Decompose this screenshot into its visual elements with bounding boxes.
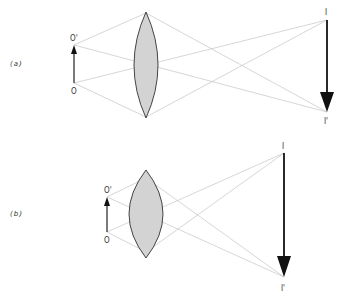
panel-a-image-tip-label: I' xyxy=(324,117,328,126)
panel-b-object-tip-label: O' xyxy=(104,186,112,195)
panel-a-object-tip-label: O' xyxy=(70,34,78,43)
lens-diagram: (a) O' O I I' (b) xyxy=(0,0,339,298)
panel-a: (a) O' O I I' xyxy=(10,8,334,126)
panel-b-image-top-label: I xyxy=(282,142,284,151)
panel-a-image-top-label: I xyxy=(325,8,327,17)
panel-a-object-arrow xyxy=(71,45,77,83)
panel-b-label: (b) xyxy=(10,210,23,218)
panel-b-lens xyxy=(129,170,163,258)
panel-b-image-tip-label: I' xyxy=(281,284,285,293)
panel-a-image-arrow xyxy=(320,20,334,112)
panel-b-image-arrow xyxy=(277,153,291,277)
panel-a-label: (a) xyxy=(10,60,23,68)
panel-b-object-arrow xyxy=(104,197,110,232)
panel-b: (b) O' O I I' xyxy=(10,142,291,293)
panel-a-lens xyxy=(134,12,158,118)
panel-b-object-base-label: O xyxy=(104,236,110,245)
panel-a-rays xyxy=(74,13,327,117)
panel-a-object-base-label: O xyxy=(71,87,77,96)
